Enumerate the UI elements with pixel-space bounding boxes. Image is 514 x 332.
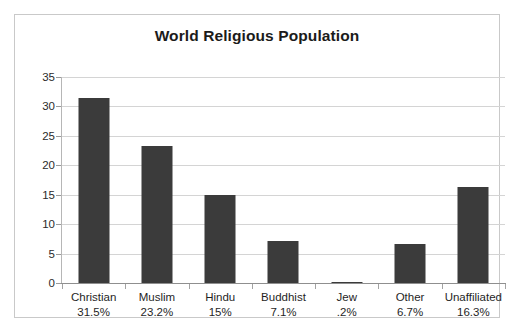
x-axis-labels: Christian31.5%Muslim23.2%Hindu15%Buddhis… — [62, 290, 505, 330]
x-axis-tick-mark — [442, 284, 443, 289]
category-name: Unaffiliated — [430, 290, 514, 305]
bar[interactable] — [458, 187, 489, 283]
x-axis-tick-mark — [315, 284, 316, 289]
x-axis-tick-mark — [189, 284, 190, 289]
x-axis-category-label: Unaffiliated16.3% — [430, 290, 514, 320]
bar[interactable] — [141, 146, 172, 283]
x-axis-tick-mark — [252, 284, 253, 289]
x-axis-tick-mark — [125, 284, 126, 289]
bar-slot — [252, 77, 315, 283]
bar[interactable] — [395, 244, 426, 283]
bar[interactable] — [205, 195, 236, 283]
bar-slot — [125, 77, 188, 283]
x-axis-tick-mark — [505, 284, 506, 289]
bar-slot — [189, 77, 252, 283]
bar-slot — [315, 77, 378, 283]
plot-area — [62, 77, 505, 283]
category-percentage: 16.3% — [430, 305, 514, 320]
y-axis-tick-marks — [15, 77, 62, 283]
bar[interactable] — [78, 98, 109, 283]
bar[interactable] — [268, 241, 299, 283]
x-axis-tick-mark — [62, 284, 63, 289]
bar-slot — [62, 77, 125, 283]
chart-container: World Religious Population 0510152025303… — [14, 14, 500, 318]
bar-slot — [378, 77, 441, 283]
x-axis-tick-mark — [378, 284, 379, 289]
chart-title: World Religious Population — [15, 27, 499, 45]
bar-slot — [442, 77, 505, 283]
